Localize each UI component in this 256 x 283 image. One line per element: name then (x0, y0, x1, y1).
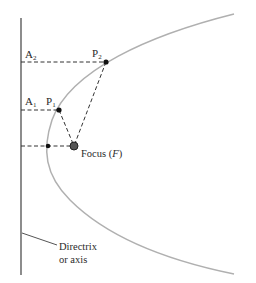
label-p2: P2 (92, 47, 102, 61)
label-directrix-1: Directrix (59, 241, 98, 252)
focus-point (70, 142, 78, 150)
label-p1: P1 (46, 95, 56, 109)
label-a2: A2 (25, 48, 37, 62)
point-p2 (103, 59, 108, 64)
directrix-leader (22, 233, 57, 245)
parabola-diagram: A2 P2 A1 P1 Focus (F) Directrix or axis (0, 0, 256, 283)
dashed-p1-focus (59, 110, 74, 146)
label-a1: A1 (25, 95, 37, 109)
label-directrix-2: or axis (59, 254, 87, 265)
point-vertex (46, 144, 51, 149)
label-focus: Focus (F) (81, 148, 123, 160)
point-p1 (56, 107, 61, 112)
